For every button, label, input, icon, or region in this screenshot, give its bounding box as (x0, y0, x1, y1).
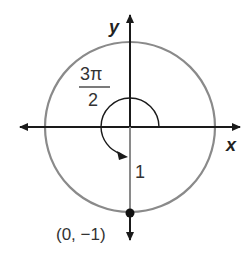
angle-denominator: 2 (88, 90, 98, 110)
point-label: (0, −1) (56, 225, 106, 244)
unit-circle-diagram: y x 3π 2 1 (0, −1) (0, 0, 250, 255)
y-axis-label: y (108, 17, 120, 37)
angle-arrowhead-icon (117, 151, 128, 160)
x-axis-label: x (225, 135, 237, 155)
angle-numerator: 3π (80, 64, 102, 84)
point-marker (126, 209, 135, 218)
radius-label: 1 (135, 162, 145, 182)
